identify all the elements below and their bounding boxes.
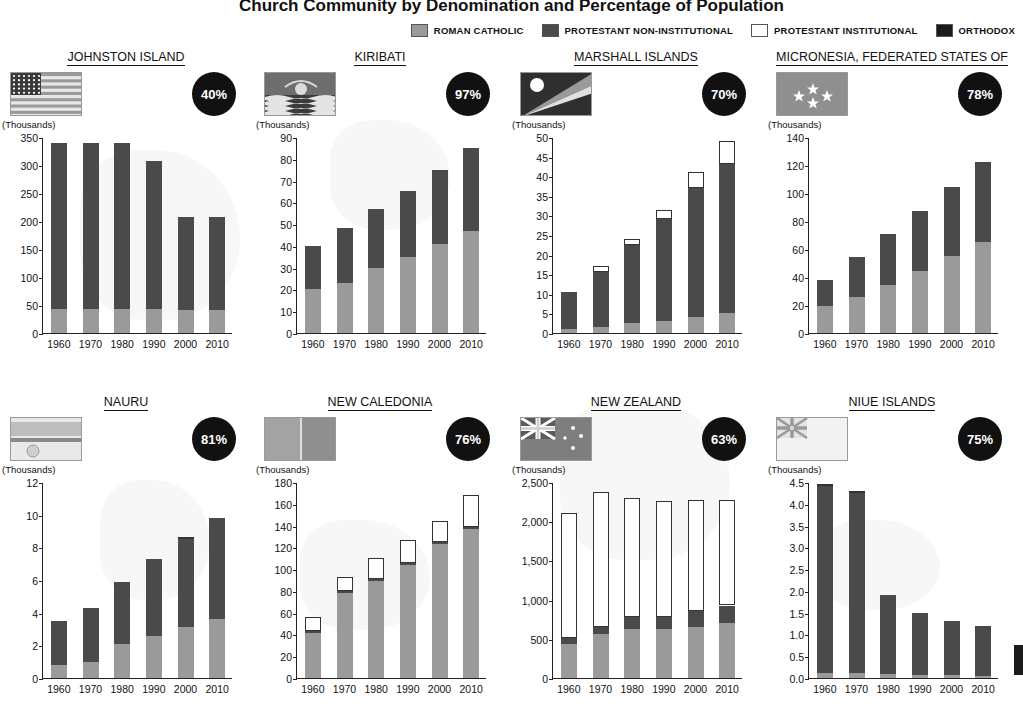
bar-segment — [463, 527, 479, 529]
plot-area: 0204060801001201401601801960197019801990… — [296, 483, 486, 679]
y-axis-tick-mark — [39, 646, 43, 647]
y-axis-tick-mark — [549, 483, 553, 484]
bar-segment — [593, 492, 609, 627]
bar-group: 2010 — [463, 148, 479, 333]
legend-swatch-roman-catholic — [411, 24, 428, 37]
x-axis-tick-label: 2000 — [936, 338, 968, 350]
bar-segment — [719, 623, 735, 678]
bar-segment — [337, 228, 353, 282]
y-axis-tick-mark — [549, 158, 553, 159]
x-axis-tick-label: 1970 — [841, 683, 873, 695]
bar-group: 2000 — [178, 538, 194, 678]
bar-segment — [83, 309, 99, 333]
y-axis-tick-label: 3.5 — [789, 521, 804, 533]
stacked-bar-chart: 0204060801001201401601801960197019801990… — [256, 483, 491, 709]
legend-swatch-protestant-non-institutional — [542, 24, 559, 37]
y-axis-tick-label: 5 — [542, 308, 548, 320]
bar-segment — [817, 486, 833, 672]
bar-group: 2010 — [209, 217, 225, 333]
y-axis-tick-label: 80 — [280, 586, 292, 598]
bar-segment — [656, 321, 672, 333]
x-axis-tick-label: 1990 — [392, 338, 424, 350]
legend-item-orthodox: ORTHODOX — [936, 24, 1016, 37]
y-axis-tick-label: 20 — [280, 651, 292, 663]
bar-segment — [849, 493, 865, 673]
bar-segment — [656, 501, 672, 617]
bar-group: 1960 — [561, 513, 577, 678]
country-panel: JOHNSTON ISLAND (Thousands)40%0501001502… — [2, 50, 250, 350]
bar-group: 1970 — [83, 143, 99, 333]
stacked-bar-chart: 0204060801001201401960197019801990200020… — [768, 138, 1003, 364]
bar-segment — [719, 500, 735, 606]
y-axis-tick-mark — [549, 177, 553, 178]
y-axis-tick-label: 2.0 — [789, 586, 804, 598]
x-axis-tick-label: 1980 — [872, 338, 904, 350]
x-axis-tick-label: 1960 — [809, 338, 841, 350]
stacked-bar-chart: 0501001502002503003501960197019801990200… — [2, 138, 237, 364]
bar-group: 2010 — [209, 518, 225, 678]
x-axis-tick-label: 1990 — [138, 338, 170, 350]
y-axis-tick-mark — [39, 679, 43, 680]
bar-segment — [368, 581, 384, 678]
bar-segment — [83, 608, 99, 662]
bar-group: 1990 — [912, 211, 928, 333]
bar-group: 1960 — [817, 484, 833, 678]
bar-group: 2000 — [944, 187, 960, 333]
panel-title-text: NEW ZEALAND — [591, 395, 681, 411]
y-axis-tick-label: 40 — [280, 629, 292, 641]
bar-segment — [944, 187, 960, 256]
y-axis-tick-label: 10 — [536, 289, 548, 301]
bar-segment — [817, 484, 833, 486]
bar-segment — [880, 285, 896, 333]
bar-group: 1960 — [305, 246, 321, 333]
plot-area: 024681012196019701980199020002010 — [42, 483, 232, 679]
bar-group: 1960 — [51, 621, 67, 678]
infographic-page: Church Community by Denomination and Per… — [0, 0, 1023, 721]
x-axis-tick-label: 1990 — [138, 683, 170, 695]
bar-segment — [944, 256, 960, 333]
panel-title-text: MICRONESIA, FEDERATED STATES OF — [776, 50, 1008, 66]
y-axis-tick-label: 140 — [274, 521, 292, 533]
bar-segment — [337, 283, 353, 333]
x-axis-tick-label: 2010 — [711, 338, 743, 350]
bar-group: 1990 — [400, 540, 416, 678]
bar-segment — [305, 246, 321, 290]
country-panel: KIRIBATI (Thousands)97%01020304050607080… — [256, 50, 504, 350]
y-axis-tick-label: 45 — [536, 152, 548, 164]
units-label: (Thousands) — [2, 119, 55, 130]
bar-segment — [912, 675, 928, 678]
panel-title: NAURU — [2, 395, 250, 409]
y-axis-tick-mark — [805, 592, 809, 593]
kiribati-flag — [264, 72, 336, 116]
bar-segment — [432, 544, 448, 678]
y-axis-tick-mark — [805, 483, 809, 484]
y-axis-tick-mark — [293, 614, 297, 615]
y-axis-tick-mark — [549, 640, 553, 641]
y-axis-tick-mark — [805, 250, 809, 251]
y-axis-tick-mark — [39, 250, 43, 251]
bar-group: 1970 — [849, 491, 865, 678]
bar-segment — [593, 327, 609, 333]
panel-title: NEW ZEALAND — [512, 395, 760, 409]
bar-segment — [209, 518, 225, 619]
bar-group: 1980 — [880, 595, 896, 678]
country-panel: NEW ZEALAND (Thousands)63%05001,0001,500… — [512, 395, 760, 695]
bar-group: 1970 — [337, 228, 353, 333]
bar-group: 1970 — [849, 257, 865, 333]
marshall-islands-flag — [520, 72, 592, 116]
y-axis-tick-mark — [805, 570, 809, 571]
bar-segment — [624, 323, 640, 333]
niue-islands-flag — [776, 417, 848, 461]
y-axis-tick-mark — [39, 614, 43, 615]
y-axis-tick-label: 10 — [280, 306, 292, 318]
johnston-island-flag — [10, 72, 82, 116]
bar-segment — [83, 143, 99, 309]
units-label: (Thousands) — [256, 464, 309, 475]
y-axis-tick-mark — [805, 614, 809, 615]
bar-segment — [561, 513, 577, 638]
bar-segment — [656, 617, 672, 629]
bar-segment — [337, 591, 353, 593]
population-percentage-badge: 81% — [192, 417, 236, 461]
y-axis-tick-label: 2,000 — [522, 516, 548, 528]
population-percentage-badge: 78% — [958, 72, 1002, 116]
